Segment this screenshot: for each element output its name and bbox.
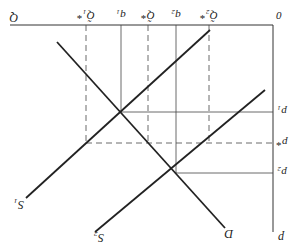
supply-demand-diagram: 0 Q p Q̃₂* q₂ Q̃* q₁ Q̃₁* p₁ p* p₂ D S₁ …: [0, 0, 291, 247]
tick-q2: q₂: [171, 10, 181, 22]
price-axis-label: p: [278, 231, 285, 245]
demand-label: D: [224, 227, 234, 241]
tick-p-star: p*: [276, 137, 289, 149]
tick-p1: p₁: [277, 106, 288, 118]
s2-label: S₂: [94, 231, 104, 245]
tick-q1-star: Q̃₁*: [77, 10, 95, 22]
quantity-axis-label: Q: [9, 11, 18, 25]
origin-label: 0: [276, 10, 282, 22]
tick-q2-star: Q̃₂*: [200, 10, 218, 22]
tick-q-star: Q̃*: [141, 10, 155, 22]
s1-label: S₁: [14, 198, 24, 212]
demand-curve: [57, 42, 225, 228]
tick-q1: q₁: [116, 10, 126, 22]
tick-p2: p₂: [277, 167, 288, 179]
